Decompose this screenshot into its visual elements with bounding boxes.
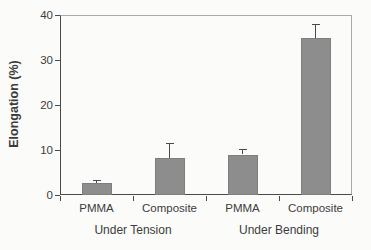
bar-composite-1 <box>155 158 185 195</box>
y-tick-mark <box>55 15 60 16</box>
error-bar-cap <box>166 143 174 144</box>
y-tick-label: 40 <box>23 9 53 21</box>
bar-pmma-0 <box>82 183 112 195</box>
category-label: Composite <box>266 202 366 214</box>
x-tick-mark <box>279 196 280 201</box>
y-tick-mark <box>55 150 60 151</box>
error-bar-line <box>315 24 316 38</box>
x-tick-mark <box>206 196 207 201</box>
error-bar-line <box>169 143 170 158</box>
error-bar-cap <box>239 149 247 150</box>
error-bar-cap <box>93 180 101 181</box>
y-tick-mark <box>55 105 60 106</box>
y-tick-label: 30 <box>23 54 53 66</box>
error-bar-cap <box>312 24 320 25</box>
group-label: Under Tension <box>63 223 203 237</box>
x-tick-mark <box>133 196 134 201</box>
y-axis-title: Elongation (%) <box>7 44 21 164</box>
y-tick-mark <box>55 60 60 61</box>
y-tick-label: 20 <box>23 99 53 111</box>
group-label: Under Bending <box>209 223 349 237</box>
y-tick-label: 0 <box>23 189 53 201</box>
x-tick-mark <box>352 196 353 201</box>
bar-pmma-2 <box>228 155 258 196</box>
x-tick-mark <box>60 196 61 201</box>
bar-composite-3 <box>301 38 331 196</box>
y-tick-label: 10 <box>23 144 53 156</box>
elongation-bar-chart: Elongation (%) 010203040PMMACompositePMM… <box>0 0 371 250</box>
